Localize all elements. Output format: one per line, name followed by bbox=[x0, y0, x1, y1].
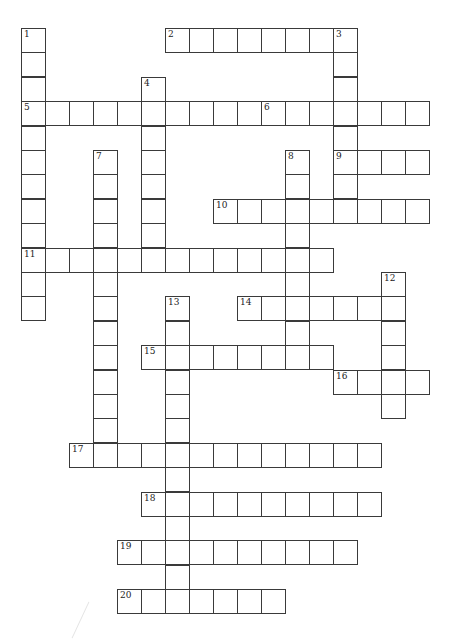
crossword-cell[interactable] bbox=[405, 101, 430, 126]
crossword-cell[interactable] bbox=[45, 248, 70, 273]
crossword-cell[interactable]: 8 bbox=[285, 150, 310, 175]
crossword-cell[interactable] bbox=[141, 248, 166, 273]
crossword-cell[interactable] bbox=[285, 345, 310, 370]
crossword-cell[interactable] bbox=[189, 28, 214, 53]
crossword-cell[interactable] bbox=[285, 28, 310, 53]
crossword-cell[interactable] bbox=[381, 150, 406, 175]
crossword-cell[interactable] bbox=[21, 272, 46, 297]
crossword-cell[interactable] bbox=[141, 126, 166, 151]
crossword-cell[interactable] bbox=[141, 540, 166, 565]
crossword-cell[interactable] bbox=[21, 52, 46, 77]
crossword-cell[interactable] bbox=[93, 101, 118, 126]
crossword-cell[interactable] bbox=[21, 199, 46, 224]
crossword-cell[interactable] bbox=[189, 101, 214, 126]
crossword-cell[interactable] bbox=[237, 28, 262, 53]
crossword-cell[interactable]: 13 bbox=[165, 296, 190, 321]
crossword-cell[interactable] bbox=[141, 223, 166, 248]
crossword-cell[interactable] bbox=[333, 101, 358, 126]
crossword-cell[interactable]: 5 bbox=[21, 101, 46, 126]
crossword-cell[interactable] bbox=[165, 565, 190, 590]
crossword-cell[interactable] bbox=[93, 223, 118, 248]
crossword-cell[interactable] bbox=[357, 492, 382, 517]
crossword-cell[interactable] bbox=[333, 174, 358, 199]
crossword-cell[interactable] bbox=[261, 492, 286, 517]
crossword-cell[interactable] bbox=[261, 540, 286, 565]
crossword-cell[interactable] bbox=[285, 174, 310, 199]
crossword-cell[interactable] bbox=[309, 345, 334, 370]
crossword-cell[interactable] bbox=[21, 174, 46, 199]
crossword-cell[interactable] bbox=[45, 101, 70, 126]
crossword-cell[interactable]: 11 bbox=[21, 248, 46, 273]
crossword-cell[interactable] bbox=[21, 77, 46, 102]
crossword-cell[interactable] bbox=[141, 174, 166, 199]
crossword-cell[interactable] bbox=[357, 150, 382, 175]
crossword-cell[interactable] bbox=[189, 589, 214, 614]
crossword-cell[interactable]: 10 bbox=[213, 199, 238, 224]
crossword-cell[interactable] bbox=[21, 296, 46, 321]
crossword-cell[interactable] bbox=[285, 296, 310, 321]
crossword-cell[interactable] bbox=[117, 443, 142, 468]
crossword-cell[interactable] bbox=[93, 174, 118, 199]
crossword-cell[interactable] bbox=[309, 28, 334, 53]
crossword-cell[interactable] bbox=[237, 199, 262, 224]
crossword-cell[interactable] bbox=[141, 199, 166, 224]
crossword-cell[interactable] bbox=[309, 101, 334, 126]
crossword-cell[interactable] bbox=[357, 370, 382, 395]
crossword-cell[interactable]: 2 bbox=[165, 28, 190, 53]
crossword-cell[interactable] bbox=[285, 248, 310, 273]
crossword-cell[interactable] bbox=[189, 492, 214, 517]
crossword-cell[interactable] bbox=[261, 443, 286, 468]
crossword-cell[interactable] bbox=[405, 150, 430, 175]
crossword-cell[interactable] bbox=[165, 516, 190, 541]
crossword-cell[interactable] bbox=[285, 199, 310, 224]
crossword-cell[interactable] bbox=[165, 370, 190, 395]
crossword-cell[interactable] bbox=[333, 126, 358, 151]
crossword-cell[interactable] bbox=[69, 101, 94, 126]
crossword-cell[interactable] bbox=[285, 321, 310, 346]
crossword-cell[interactable] bbox=[309, 492, 334, 517]
crossword-cell[interactable] bbox=[237, 540, 262, 565]
crossword-cell[interactable] bbox=[357, 101, 382, 126]
crossword-cell[interactable] bbox=[93, 418, 118, 443]
crossword-cell[interactable] bbox=[213, 248, 238, 273]
crossword-cell[interactable] bbox=[117, 101, 142, 126]
crossword-cell[interactable] bbox=[333, 492, 358, 517]
crossword-cell[interactable] bbox=[165, 492, 190, 517]
crossword-cell[interactable]: 15 bbox=[141, 345, 166, 370]
crossword-cell[interactable] bbox=[237, 248, 262, 273]
crossword-cell[interactable] bbox=[189, 540, 214, 565]
crossword-cell[interactable] bbox=[21, 223, 46, 248]
crossword-cell[interactable] bbox=[165, 345, 190, 370]
crossword-cell[interactable] bbox=[357, 443, 382, 468]
crossword-cell[interactable] bbox=[333, 296, 358, 321]
crossword-cell[interactable] bbox=[237, 345, 262, 370]
crossword-cell[interactable] bbox=[309, 199, 334, 224]
crossword-cell[interactable] bbox=[165, 418, 190, 443]
crossword-cell[interactable] bbox=[189, 443, 214, 468]
crossword-cell[interactable] bbox=[189, 248, 214, 273]
crossword-cell[interactable] bbox=[285, 101, 310, 126]
crossword-cell[interactable] bbox=[309, 443, 334, 468]
crossword-cell[interactable] bbox=[285, 540, 310, 565]
crossword-cell[interactable] bbox=[21, 126, 46, 151]
crossword-cell[interactable] bbox=[93, 345, 118, 370]
crossword-cell[interactable] bbox=[93, 248, 118, 273]
crossword-cell[interactable] bbox=[213, 589, 238, 614]
crossword-cell[interactable] bbox=[165, 540, 190, 565]
crossword-cell[interactable] bbox=[69, 248, 94, 273]
crossword-cell[interactable] bbox=[285, 492, 310, 517]
crossword-cell[interactable] bbox=[213, 101, 238, 126]
crossword-cell[interactable]: 7 bbox=[93, 150, 118, 175]
crossword-cell[interactable] bbox=[213, 345, 238, 370]
crossword-cell[interactable] bbox=[333, 540, 358, 565]
crossword-cell[interactable]: 14 bbox=[237, 296, 262, 321]
crossword-cell[interactable]: 18 bbox=[141, 492, 166, 517]
crossword-cell[interactable] bbox=[381, 394, 406, 419]
crossword-cell[interactable] bbox=[93, 272, 118, 297]
crossword-cell[interactable] bbox=[237, 589, 262, 614]
crossword-cell[interactable] bbox=[141, 150, 166, 175]
crossword-cell[interactable] bbox=[141, 101, 166, 126]
crossword-cell[interactable] bbox=[261, 296, 286, 321]
crossword-cell[interactable] bbox=[309, 296, 334, 321]
crossword-cell[interactable] bbox=[381, 296, 406, 321]
